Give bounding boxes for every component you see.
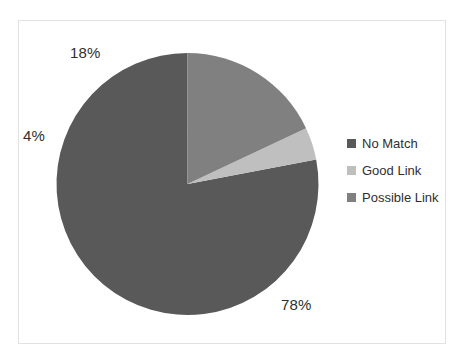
legend-label-no-match: No Match <box>362 137 418 150</box>
legend-item-good-link[interactable]: Good Link <box>347 157 447 184</box>
legend-item-possible-link[interactable]: Possible Link <box>347 184 447 211</box>
legend-label-good-link: Good Link <box>362 164 421 177</box>
data-label-possible-link: 18% <box>70 44 101 61</box>
pie-chart-figure: 18% 4% 78% No Match Good Link Possible L… <box>0 0 466 364</box>
pie-slice-group <box>57 53 319 315</box>
legend-item-no-match[interactable]: No Match <box>347 130 447 157</box>
legend-swatch-icon-no-match <box>347 139 356 148</box>
chart-legend: No Match Good Link Possible Link <box>347 130 447 211</box>
legend-swatch-icon-possible-link <box>347 193 356 202</box>
data-label-no-match: 78% <box>281 296 312 313</box>
legend-swatch-icon-good-link <box>347 166 356 175</box>
data-label-good-link: 4% <box>23 127 45 144</box>
legend-label-possible-link: Possible Link <box>362 191 439 204</box>
